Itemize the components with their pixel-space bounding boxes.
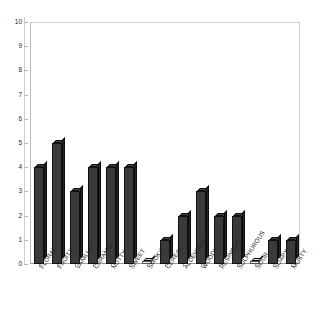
- bar-slot: [142, 22, 152, 264]
- bar-slot: [250, 22, 260, 264]
- bar-chart: 012345678910 FLORALFRUITYVANILLACARAMELN…: [0, 0, 317, 322]
- bar-slot: [88, 22, 98, 264]
- y-tick-mark: [24, 191, 28, 192]
- y-tick-mark: [24, 167, 28, 168]
- bars-container: [30, 22, 300, 264]
- y-tick-label: 3: [18, 188, 22, 195]
- y-tick-label: 8: [18, 67, 22, 74]
- bar-slot: [214, 22, 224, 264]
- y-tick-mark: [24, 70, 28, 71]
- y-tick-mark: [24, 264, 28, 265]
- bar-slot: [34, 22, 44, 264]
- y-tick-label: 0: [18, 261, 22, 268]
- y-tick-mark: [24, 143, 28, 144]
- y-tick-label: 10: [15, 19, 22, 26]
- bar-slot: [124, 22, 134, 264]
- bar-slot: [52, 22, 62, 264]
- bar-slot: [286, 22, 296, 264]
- bar-slot: [232, 22, 242, 264]
- y-tick-label: 6: [18, 116, 22, 123]
- y-axis: 012345678910: [0, 0, 30, 322]
- bar-slot: [160, 22, 170, 264]
- y-tick-label: 1: [18, 237, 22, 244]
- bar[interactable]: [124, 167, 134, 264]
- x-axis-labels: FLORALFRUITYVANILLACARAMELNUTTYSWEETSMOK…: [30, 266, 300, 322]
- y-tick-label: 7: [18, 91, 22, 98]
- bar-slot: [268, 22, 278, 264]
- y-tick-mark: [24, 216, 28, 217]
- y-tick-mark: [24, 22, 28, 23]
- y-tick-mark: [24, 119, 28, 120]
- y-tick-mark: [24, 240, 28, 241]
- bar-slot: [106, 22, 116, 264]
- y-tick-label: 5: [18, 140, 22, 147]
- y-tick-label: 4: [18, 164, 22, 171]
- bar-slot: [178, 22, 188, 264]
- y-tick-label: 2: [18, 212, 22, 219]
- bar-slot: [196, 22, 206, 264]
- bar[interactable]: [34, 167, 44, 264]
- bar-slot: [70, 22, 80, 264]
- y-tick-mark: [24, 95, 28, 96]
- y-tick-label: 9: [18, 43, 22, 50]
- y-tick-mark: [24, 46, 28, 47]
